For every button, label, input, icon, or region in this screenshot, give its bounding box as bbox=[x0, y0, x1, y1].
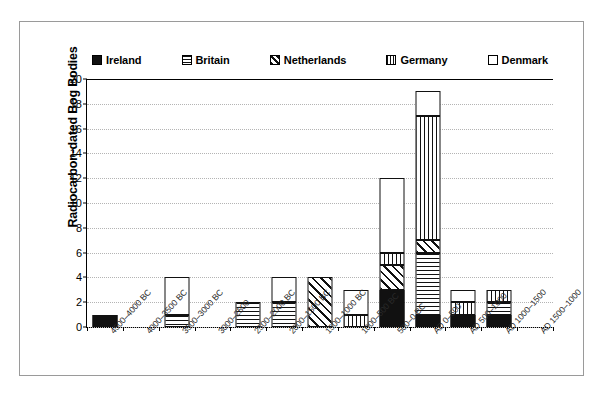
bar-segment-germany[interactable] bbox=[379, 253, 404, 265]
plot-inner: 02468101214161820 bbox=[87, 79, 553, 327]
chart-legend: Ireland Britain Netherlands Germany Denm… bbox=[80, 51, 560, 69]
y-axis-tick-label: 2 bbox=[76, 296, 82, 308]
y-axis-tick-label: 10 bbox=[70, 197, 82, 209]
legend-item-denmark: Denmark bbox=[488, 54, 548, 66]
bar-segment-denmark[interactable] bbox=[451, 290, 476, 302]
figure-frame: Ireland Britain Netherlands Germany Denm… bbox=[19, 21, 584, 376]
x-axis-tick-labels: 4500–4000 BC4000–3500 BC3500–3000 BC3000… bbox=[86, 329, 552, 398]
legend-label-germany: Germany bbox=[400, 54, 447, 66]
bar-segment-denmark[interactable] bbox=[379, 178, 404, 252]
figure: Ireland Britain Netherlands Germany Denm… bbox=[0, 0, 605, 398]
legend-item-ireland: Ireland bbox=[92, 54, 141, 66]
y-axis-title: Radiocarbon-dated Bog Bodies bbox=[66, 22, 80, 252]
legend-swatch-ireland-icon bbox=[92, 55, 102, 65]
legend-swatch-britain-icon bbox=[182, 55, 192, 65]
y-axis-tick-label: 14 bbox=[70, 147, 82, 159]
bar-slot bbox=[481, 79, 517, 327]
y-axis-tick-label: 4 bbox=[76, 271, 82, 283]
bar-segment-netherlands[interactable] bbox=[415, 240, 440, 252]
bar-segment-netherlands[interactable] bbox=[379, 265, 404, 290]
legend-swatch-germany-icon bbox=[386, 55, 396, 65]
x-axis-tick-mark bbox=[553, 327, 554, 331]
bar-slot bbox=[230, 79, 266, 327]
bar-slot bbox=[338, 79, 374, 327]
y-axis-tick-label: 18 bbox=[70, 98, 82, 110]
y-axis-tick-label: 8 bbox=[76, 222, 82, 234]
bar-slot bbox=[302, 79, 338, 327]
bar-slot bbox=[517, 79, 553, 327]
bar-slot bbox=[266, 79, 302, 327]
bar-slot bbox=[195, 79, 231, 327]
legend-label-ireland: Ireland bbox=[106, 54, 141, 66]
bar-slot bbox=[374, 79, 410, 327]
y-axis-tick-label: 0 bbox=[76, 321, 82, 333]
bar-slot bbox=[410, 79, 446, 327]
y-axis-tick-label: 12 bbox=[70, 172, 82, 184]
bar-segment-denmark[interactable] bbox=[415, 91, 440, 116]
legend-label-netherlands: Netherlands bbox=[284, 54, 346, 66]
y-axis-tick-label: 6 bbox=[76, 247, 82, 259]
bar-slot bbox=[123, 79, 159, 327]
legend-item-britain: Britain bbox=[182, 54, 230, 66]
bar-slot bbox=[445, 79, 481, 327]
bar-segment-germany[interactable] bbox=[415, 116, 440, 240]
legend-item-netherlands: Netherlands bbox=[270, 54, 346, 66]
bar-slot bbox=[159, 79, 195, 327]
legend-item-germany: Germany bbox=[386, 54, 447, 66]
legend-label-britain: Britain bbox=[196, 54, 230, 66]
legend-swatch-denmark-icon bbox=[488, 55, 498, 65]
legend-swatch-netherlands-icon bbox=[270, 55, 280, 65]
plot-area: 02468101214161820 bbox=[86, 79, 553, 328]
y-axis-tick-label: 20 bbox=[70, 73, 82, 85]
legend-label-denmark: Denmark bbox=[502, 54, 548, 66]
bar-slot bbox=[87, 79, 123, 327]
stacked-bar[interactable] bbox=[415, 91, 440, 327]
y-axis-tick-label: 16 bbox=[70, 123, 82, 135]
